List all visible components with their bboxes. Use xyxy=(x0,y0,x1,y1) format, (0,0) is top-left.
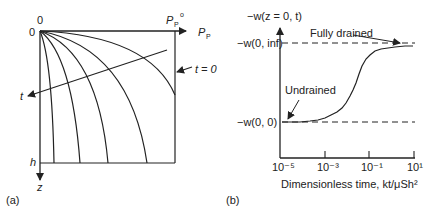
pp0-label: P P o xyxy=(166,11,184,28)
x-tick-1e1: 10¹ xyxy=(407,161,423,173)
origin-left-label: 0 xyxy=(29,26,35,38)
x-tick-1e-1: 10⁻¹ xyxy=(361,161,383,173)
pp-label: P P xyxy=(198,26,211,40)
panel-b-label: (b) xyxy=(226,194,239,206)
x-ticks xyxy=(325,151,414,158)
y-axis-title: −w(z = 0, t) xyxy=(247,10,302,22)
x-tick-1e-5: 10⁻⁵ xyxy=(272,161,295,173)
svg-text:P: P xyxy=(166,14,174,26)
svg-text:P: P xyxy=(206,33,211,40)
z-label: z xyxy=(36,181,43,193)
y-tick-fully-drained: −w(0, inf) xyxy=(237,37,283,49)
fully-drained-label: Fully drained xyxy=(310,27,373,39)
undrained-label: Undrained xyxy=(285,84,336,96)
panel-a-label: (a) xyxy=(6,194,19,206)
undrained-arrow xyxy=(288,100,299,119)
x-tick-1e-3: 10⁻³ xyxy=(317,161,339,173)
panel-a: 0 0 P P o P P t = 0 t h z (a) xyxy=(6,11,218,206)
svg-text:P: P xyxy=(174,21,179,28)
x-axis-title: Dimensionless time, kt/μSh² xyxy=(281,178,418,190)
t-label: t xyxy=(20,90,24,102)
svg-text:o: o xyxy=(180,11,184,18)
isochrones xyxy=(40,31,175,163)
panel-b: −w(z = 0, t) −w(0, inf) −w(0, 0) Fully d… xyxy=(226,10,423,206)
figure-canvas: 0 0 P P o P P t = 0 t h z (a) xyxy=(0,0,437,216)
y-tick-undrained: −w(0, 0) xyxy=(237,116,277,128)
svg-text:P: P xyxy=(198,26,206,38)
t0-arrow xyxy=(177,67,192,72)
t0-label: t = 0 xyxy=(195,63,218,75)
h-label: h xyxy=(30,156,36,168)
origin-top-label: 0 xyxy=(37,14,43,26)
